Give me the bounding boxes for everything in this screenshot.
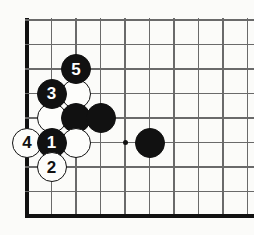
stone-number-label: 4 xyxy=(22,134,31,151)
stone-number-label: 3 xyxy=(47,85,56,102)
grid-line-horizontal xyxy=(25,68,254,69)
go-board: 35412 xyxy=(0,0,254,235)
star-point-marker xyxy=(123,140,128,145)
grid-line-horizontal xyxy=(25,19,254,20)
stone-move-5[interactable]: 5 xyxy=(61,54,91,84)
stone-number-label: 5 xyxy=(71,60,80,77)
stone-move-3[interactable]: 3 xyxy=(37,79,67,109)
grid-line-horizontal xyxy=(25,44,254,45)
grid-line-horizontal xyxy=(25,191,254,192)
board-bottom-edge xyxy=(25,214,254,218)
stone-black[interactable] xyxy=(135,128,165,158)
stone-move-2[interactable]: 2 xyxy=(37,152,67,182)
stone-number-label: 1 xyxy=(47,134,56,151)
stone-number-label: 2 xyxy=(47,158,56,175)
stone-black[interactable] xyxy=(86,103,116,133)
